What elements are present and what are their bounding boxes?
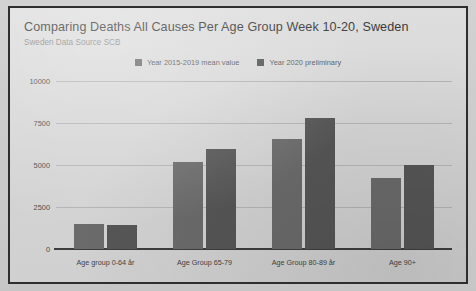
bar-groups: Age group 0-64 årAge Group 65-79Age Grou… [56,81,452,249]
y-axis-tick-label: 2500 [34,203,50,212]
legend-item-series-2[interactable]: Year 2020 preliminary [257,58,341,67]
chart-subtitle: Sweden Data Source SCB [24,38,120,47]
x-axis-category-label: Age Group 65-79 [177,258,232,267]
chart-legend: Year 2015-2019 mean value Year 2020 prel… [10,58,466,67]
chart-card: Comparing Deaths All Causes Per Age Grou… [10,8,466,282]
bar-group: Age Group 65-79 [155,81,254,249]
bar-series-1[interactable] [74,224,104,249]
bar-series-2[interactable] [206,149,236,249]
bar-group: Age 90+ [353,81,452,249]
chart-title: Comparing Deaths All Causes Per Age Grou… [24,20,409,34]
x-axis-category-label: Age group 0-64 år [77,258,135,267]
bar-group: Age Group 80-89 år [254,81,353,249]
bar-series-1[interactable] [371,178,401,249]
legend-label-series-1: Year 2015-2019 mean value [147,58,240,67]
bar-series-1[interactable] [173,162,203,249]
legend-item-series-1[interactable]: Year 2015-2019 mean value [135,58,240,67]
y-axis-tick-label: 5000 [34,161,50,170]
screenshot-page: Comparing Deaths All Causes Per Age Grou… [0,0,476,291]
legend-swatch-icon-series-1 [135,59,142,66]
bar-series-1[interactable] [272,139,302,249]
legend-label-series-2: Year 2020 preliminary [269,58,341,67]
x-axis-category-label: Age Group 80-89 år [272,258,336,267]
bar-series-2[interactable] [107,225,137,249]
y-axis-tick-label: 0 [46,245,50,254]
legend-swatch-icon-series-2 [257,59,264,66]
chart-frame: Comparing Deaths All Causes Per Age Grou… [8,6,468,284]
y-axis-tick-label: 10000 [29,77,50,86]
bar-series-2[interactable] [305,118,335,249]
y-axis-tick-label: 7500 [34,119,50,128]
bar-series-2[interactable] [404,165,434,250]
plot-area: 025005000750010000 Age group 0-64 årAge … [56,81,452,249]
x-axis-category-label: Age 90+ [389,258,416,267]
bar-group: Age group 0-64 år [56,81,155,249]
